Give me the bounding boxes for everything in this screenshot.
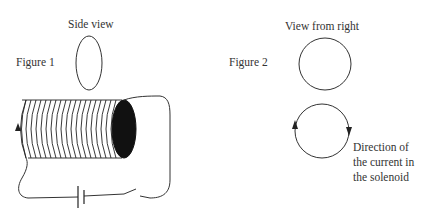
current-direction-circle — [295, 104, 349, 158]
circuit-wire — [19, 96, 170, 198]
side-view-ellipse — [76, 36, 102, 90]
diagram-canvas — [0, 0, 422, 214]
solenoid-coil — [21, 100, 123, 158]
battery-icon — [78, 186, 84, 208]
arrow-down-icon — [346, 127, 352, 136]
solenoid-end-face — [112, 100, 136, 158]
view-from-right-circle — [299, 38, 351, 90]
